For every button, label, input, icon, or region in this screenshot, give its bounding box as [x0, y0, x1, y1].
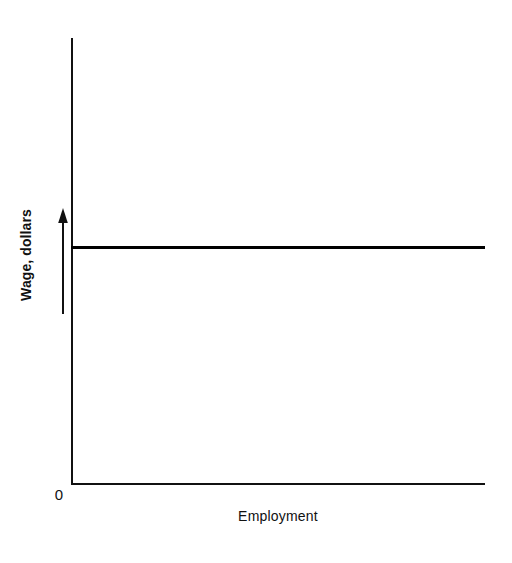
chart-figure: 0 Wage, dollars Employment: [0, 0, 512, 563]
supply-curve-line: [71, 246, 485, 249]
y-axis-title-text: Wage, dollars: [18, 209, 34, 301]
y-axis-title: Wage, dollars: [0, 190, 52, 320]
x-axis-title: Employment: [71, 508, 485, 524]
x-axis-line: [71, 483, 485, 485]
up-arrow-icon: [53, 206, 73, 314]
origin-label: 0: [51, 486, 67, 504]
